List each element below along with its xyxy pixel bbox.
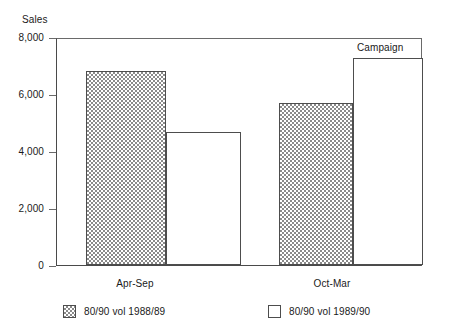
x-category-label-oct-mar: Oct-Mar xyxy=(292,278,372,289)
legend-label-1989-90: 80/90 vol 1989/90 xyxy=(289,306,370,317)
y-tick-2000 xyxy=(49,209,56,210)
bar-chart: Sales Campaign 0 2,000 4,000 6,000 8,000… xyxy=(0,0,473,334)
y-tick-label-6000: 6,000 xyxy=(18,89,44,100)
y-tick-label-4000: 4,000 xyxy=(18,146,44,157)
plot-area: Campaign xyxy=(56,38,422,266)
legend-entry-1989-90: 80/90 vol 1989/90 xyxy=(268,305,370,318)
y-axis-title: Sales xyxy=(22,14,48,25)
open-swatch-icon xyxy=(268,305,281,318)
bar-oct-mar-1988-89 xyxy=(279,103,353,265)
x-category-label-apr-sep: Apr-Sep xyxy=(95,278,175,289)
campaign-annotation: Campaign xyxy=(357,42,403,53)
y-tick-6000 xyxy=(49,95,56,96)
bar-oct-mar-1989-90 xyxy=(353,58,423,265)
y-tick-4000 xyxy=(49,152,56,153)
bar-apr-sep-1988-89 xyxy=(86,71,166,265)
hatched-swatch-icon xyxy=(63,305,76,318)
y-tick-label-0: 0 xyxy=(38,260,44,271)
bar-apr-sep-1989-90 xyxy=(166,132,241,265)
legend-label-1988-89: 80/90 vol 1988/89 xyxy=(84,306,165,317)
chart-legend: 80/90 vol 1988/89 80/90 vol 1989/90 xyxy=(0,303,473,327)
y-tick-8000 xyxy=(49,38,56,39)
y-tick-label-2000: 2,000 xyxy=(18,203,44,214)
y-tick-0 xyxy=(49,266,56,267)
legend-entry-1988-89: 80/90 vol 1988/89 xyxy=(63,305,165,318)
y-tick-label-8000: 8,000 xyxy=(18,32,44,43)
